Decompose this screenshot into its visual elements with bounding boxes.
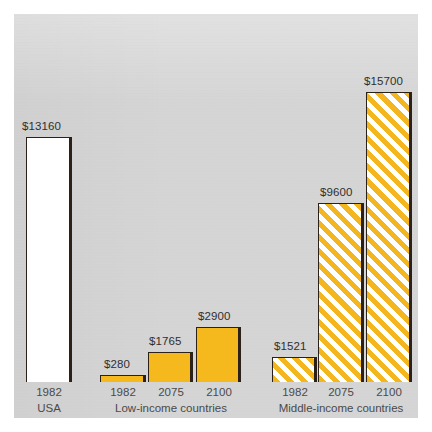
value-label-low-income-1982: $280 [104,358,130,370]
value-label-middle-income-1982: $1521 [274,340,306,352]
bar-usa-1982 [26,137,72,382]
chart-container: $13160 1982 USA $280 $1765 $2900 1982 20… [0,0,432,432]
group-label-low-income: Low-income countries [91,402,251,414]
bar-low-income-2100 [196,327,241,382]
tick-label-low-income-2100: 2100 [189,386,249,398]
bar-low-income-2075 [148,352,193,382]
plot-area: $13160 1982 USA $280 $1765 $2900 1982 20… [0,0,432,432]
group-label-middle-income: Middle-income countries [261,402,421,414]
value-label-low-income-2075: $1765 [149,335,181,347]
tick-label-middle-income-2100: 2100 [359,386,419,398]
value-label-middle-income-2100: $15700 [364,75,403,87]
bar-middle-income-2075 [318,203,364,382]
bar-middle-income-2100 [366,92,412,382]
group-label-usa: USA [19,402,79,414]
bar-low-income-1982 [100,375,146,382]
bar-middle-income-1982 [272,357,317,382]
value-label-middle-income-2075: $9600 [320,186,352,198]
value-label-low-income-2100: $2900 [198,310,230,322]
value-label-usa-1982: $13160 [22,120,61,132]
tick-label-usa-1982: 1982 [19,386,79,398]
